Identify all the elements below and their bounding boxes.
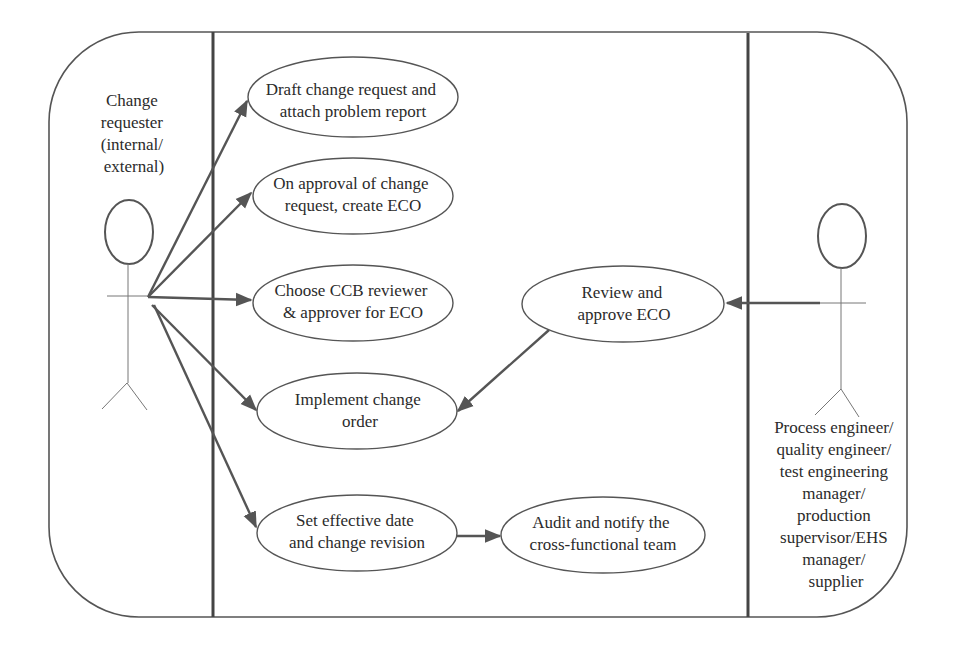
use-case-choose-ccb: Choose CCB reviewer & approver for ECO [253,265,453,341]
svg-text:Audit and notify the cro: Audit and notify the cross-functional te… [530,513,677,554]
svg-text:Set effective date and c: Set effective date and change revision [289,511,425,552]
use-case-create-eco: On approval of change request, create EC… [253,158,453,234]
svg-text:Draft change request and: Draft change request and attach problem … [266,80,441,121]
arrow-requester-create-eco [148,193,251,297]
arrow-requester-set-date [154,305,256,527]
use-case-implement: Implement change order [257,373,457,449]
associations [148,101,820,536]
arrow-review-implement [458,330,549,411]
actor-head-icon [105,200,153,264]
system-boundary [49,32,907,617]
use-case-draft: Draft change request and attach problem … [248,57,458,137]
arrow-requester-implement [152,305,256,410]
svg-text:Review and approve ECO: Review and approve ECO [577,283,670,324]
actor-head-icon [818,204,866,268]
use-case-diagram: Change requester (internal/ external) Pr… [0,0,955,645]
use-case-audit: Audit and notify the cross-functional te… [501,497,705,573]
actor-process-engineer: Process engineer/ quality engineer/ test… [774,204,898,591]
use-case-set-date: Set effective date and change revision [257,495,457,571]
svg-text:Implement change order: Implement change order [295,390,425,431]
actor-change-requester: Change requester (internal/ external) [101,91,168,410]
actor-label: Change requester (internal/ external) [101,91,168,176]
svg-text:Choose CCB reviewer & ap: Choose CCB reviewer & approver for ECO [274,281,431,322]
actor-label: Process engineer/ quality engineer/ test… [774,418,898,591]
svg-text:On approval of change re: On approval of change request, create EC… [273,174,433,215]
arrow-requester-choose-ccb [148,297,251,300]
use-case-review: Review and approve ECO [522,266,724,342]
